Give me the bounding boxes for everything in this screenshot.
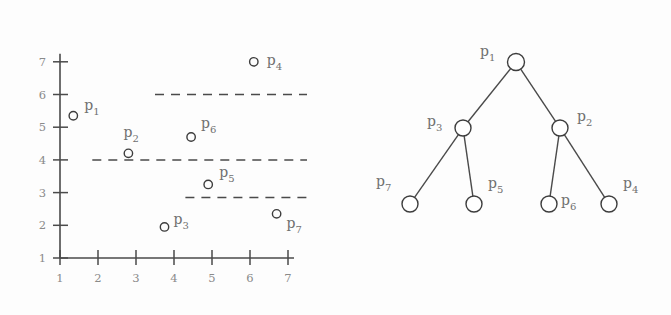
tree-node-label-n-p2: p2: [577, 108, 592, 128]
tree-diagram-svg: p1p3p2p7p5p6p4: [340, 0, 671, 315]
tree-edge-n-p1-n-p3: [468, 69, 511, 122]
y-axis-tick-label: 3: [39, 186, 46, 200]
tree-node-n-p1[interactable]: [508, 54, 525, 71]
tree-edge-n-p3-n-p5: [464, 136, 473, 196]
data-point-p3[interactable]: [160, 223, 168, 231]
data-point-p2[interactable]: [124, 149, 132, 157]
tree-node-label-n-p7: p7: [376, 173, 391, 193]
tree-label-base-n-p7: p: [376, 173, 385, 189]
tree-label-sub-n-p1: 1: [489, 52, 495, 63]
scatter-plot-svg: 12345671234567p1p2p3p4p5p6p7: [0, 0, 340, 315]
y-axis-tick-label: 4: [39, 153, 46, 167]
tree-node-n-p7[interactable]: [402, 196, 418, 212]
tree-edge-n-p2-n-p6: [550, 136, 559, 196]
tree-label-sub-n-p2: 2: [586, 117, 592, 128]
x-axis-tick-label: 1: [56, 271, 63, 285]
point-label-p1: p1: [84, 97, 99, 117]
tree-label-base-n-p4: p: [623, 175, 632, 191]
tree-label-sub-n-p6: 6: [570, 201, 576, 212]
tree-label-sub-n-p7: 7: [385, 182, 391, 193]
tree-label-sub-n-p5: 5: [497, 184, 503, 195]
tree-node-n-p5[interactable]: [466, 196, 482, 212]
point-label-p2: p2: [123, 124, 138, 144]
point-label-base-p2: p: [123, 124, 132, 140]
tree-node-n-p4[interactable]: [601, 196, 617, 212]
y-axis-tick-label: 5: [39, 120, 46, 134]
point-label-p7: p7: [287, 215, 302, 235]
y-axis-tick-label: 7: [39, 55, 46, 69]
tree-node-n-p2[interactable]: [552, 120, 568, 136]
point-label-sub-p1: 1: [93, 106, 99, 117]
point-label-base-p7: p: [287, 215, 296, 231]
point-label-sub-p3: 3: [183, 220, 189, 231]
tree-node-n-p6[interactable]: [541, 196, 557, 212]
data-point-p4[interactable]: [250, 58, 258, 66]
tree-node-label-n-p1: p1: [480, 43, 495, 63]
tree-edge-n-p1-n-p2: [521, 69, 556, 121]
x-axis-tick-label: 6: [246, 271, 253, 285]
point-label-base-p5: p: [219, 164, 228, 180]
tree-label-base-n-p2: p: [577, 108, 586, 124]
data-point-p6[interactable]: [187, 133, 195, 141]
point-label-base-p4: p: [267, 52, 276, 68]
tree-node-n-p3[interactable]: [455, 120, 471, 136]
tree-label-base-n-p1: p: [480, 43, 489, 59]
point-label-base-p1: p: [84, 97, 93, 113]
point-label-p5: p5: [219, 164, 234, 184]
tree-node-label-n-p6: p6: [561, 192, 576, 212]
point-label-sub-p2: 2: [132, 133, 138, 144]
tree-node-label-n-p5: p5: [488, 175, 503, 195]
point-label-base-p3: p: [174, 211, 183, 227]
y-axis-tick-label: 2: [39, 218, 46, 232]
x-axis-tick-label: 7: [284, 271, 291, 285]
point-label-p4: p4: [267, 52, 282, 72]
point-label-sub-p4: 4: [276, 61, 282, 72]
tree-diagram-panel: p1p3p2p7p5p6p4: [340, 0, 671, 315]
tree-edge-n-p2-n-p4: [564, 135, 604, 198]
data-point-p7[interactable]: [272, 210, 280, 218]
point-label-sub-p5: 5: [228, 173, 234, 184]
y-axis-tick-label: 6: [39, 88, 46, 102]
tree-node-label-n-p3: p3: [427, 113, 442, 133]
point-label-sub-p7: 7: [296, 224, 302, 235]
scatter-plot-panel: 12345671234567p1p2p3p4p5p6p7: [0, 0, 340, 315]
point-label-p3: p3: [174, 211, 189, 231]
x-axis-tick-label: 3: [132, 271, 139, 285]
tree-edge-n-p3-n-p7: [415, 135, 459, 198]
point-label-p6: p6: [201, 115, 216, 135]
tree-label-base-n-p3: p: [427, 113, 436, 129]
data-point-p5[interactable]: [204, 180, 212, 188]
tree-label-base-n-p6: p: [561, 192, 570, 208]
tree-label-base-n-p5: p: [488, 175, 497, 191]
tree-node-label-n-p4: p4: [623, 175, 638, 195]
tree-label-sub-n-p3: 3: [436, 122, 442, 133]
x-axis-tick-label: 2: [94, 271, 101, 285]
x-axis-tick-label: 4: [170, 271, 177, 285]
figure-canvas: 12345671234567p1p2p3p4p5p6p7 p1p3p2p7p5p…: [0, 0, 671, 315]
y-axis-tick-label: 1: [39, 251, 46, 265]
point-label-sub-p6: 6: [210, 124, 216, 135]
x-axis-tick-label: 5: [208, 271, 215, 285]
data-point-p1[interactable]: [69, 112, 77, 120]
tree-label-sub-n-p4: 4: [632, 184, 638, 195]
point-label-base-p6: p: [201, 115, 210, 131]
